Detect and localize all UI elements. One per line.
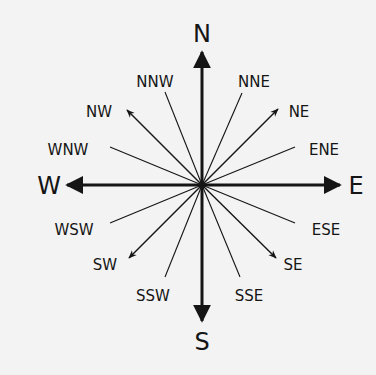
label-sw: SW — [93, 256, 118, 274]
compass-rose-diagram: N S E W NNW NNE NW NE WNW ENE WSW ESE SW… — [0, 0, 376, 375]
center-hub — [199, 182, 205, 188]
label-ene: ENE — [309, 141, 339, 159]
arrow-se — [202, 185, 276, 258]
label-s: S — [194, 328, 209, 356]
arrow-sw — [129, 185, 202, 258]
label-wsw: WSW — [54, 221, 93, 239]
label-e: E — [348, 172, 363, 200]
label-nnw: NNW — [136, 73, 173, 91]
line-sse — [202, 185, 240, 277]
line-wsw — [110, 185, 202, 223]
line-nnw — [165, 92, 202, 185]
label-ese: ESE — [312, 221, 340, 239]
line-ese — [202, 185, 295, 223]
line-ssw — [165, 185, 202, 277]
compass-rose-svg: N S E W NNW NNE NW NE WNW ENE WSW ESE SW… — [0, 0, 376, 375]
label-nne: NNE — [238, 73, 270, 91]
label-wnw: WNW — [48, 141, 89, 159]
arrow-ne — [202, 109, 278, 185]
label-w: W — [37, 172, 61, 200]
label-nw: NW — [86, 103, 112, 121]
line-wnw — [110, 147, 202, 185]
arrow-nw — [127, 110, 202, 185]
label-se: SE — [284, 256, 303, 274]
label-ne: NE — [289, 103, 310, 121]
label-ssw: SSW — [136, 287, 170, 305]
label-sse: SSE — [235, 287, 264, 305]
label-n: N — [193, 20, 211, 48]
